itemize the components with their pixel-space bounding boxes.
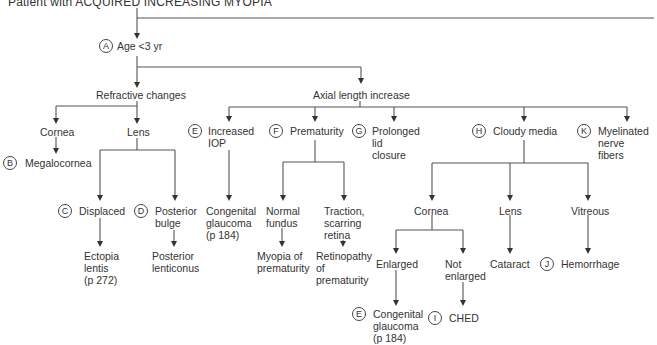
badge-k: K (577, 124, 591, 138)
badge-d: D (134, 204, 148, 218)
node-cataract: Cataract (490, 258, 530, 270)
node-traction-scarring-retina: Traction, scarring retina (324, 205, 364, 241)
badge-c: C (58, 204, 72, 218)
node-cloudy-cornea: Cornea (414, 205, 448, 217)
node-refractive-cornea: Cornea (40, 126, 74, 138)
node-increased-iop: Increased IOP (208, 125, 254, 149)
node-not-enlarged: Not enlarged (445, 258, 486, 282)
badge-j: J (540, 257, 554, 271)
badge-h: H (472, 124, 486, 138)
badge-f: F (269, 124, 283, 138)
node-cloudy-vitreous: Vitreous (571, 205, 609, 217)
node-megalocornea: Megalocornea (25, 157, 92, 169)
node-cloudy-lens: Lens (499, 205, 522, 217)
badge-g: G (352, 124, 366, 138)
node-ectopia-lentis: Ectopia lentis (p 272) (84, 250, 119, 286)
node-congenital-glaucoma-1: Congenital glaucoma (p 184) (206, 205, 256, 241)
node-myelinated-nerve-fibers: Myelinated nerve fibers (598, 125, 649, 161)
node-hemorrhage: Hemorrhage (561, 258, 619, 270)
badge-e-2: E (352, 307, 366, 321)
badge-e: E (188, 124, 202, 138)
node-refractive-changes: Refractive changes (96, 89, 186, 101)
node-prematurity: Prematurity (290, 125, 344, 137)
node-myopia-of-prematurity: Myopia of prematurity (257, 250, 310, 274)
badge-b: B (3, 156, 17, 170)
badge-i: I (428, 311, 442, 325)
node-axial-length-increase: Axial length increase (313, 89, 410, 101)
node-prolonged-lid-closure: Prolonged lid closure (372, 125, 420, 161)
badge-a: A (99, 39, 113, 53)
node-enlarged: Enlarged (376, 258, 418, 270)
node-age: Age <3 yr (117, 40, 162, 52)
node-normal-fundus: Normal fundus (266, 205, 300, 229)
node-congenital-glaucoma-2: Congenital glaucoma (p 184) (373, 308, 423, 344)
node-posterior-bulge: Posterior bulge (155, 205, 197, 229)
node-posterior-lenticonus: Posterior lenticonus (152, 250, 199, 274)
node-cloudy-media: Cloudy media (493, 125, 557, 137)
node-displaced: Displaced (79, 205, 125, 217)
node-ched: CHED (449, 312, 479, 324)
node-retinopathy-of-prematurity: Retinopathy of prematurity (316, 250, 372, 286)
node-refractive-lens: Lens (127, 126, 150, 138)
diagram-title: Patient with ACQUIRED INCREASING MYOPIA (8, 0, 272, 9)
